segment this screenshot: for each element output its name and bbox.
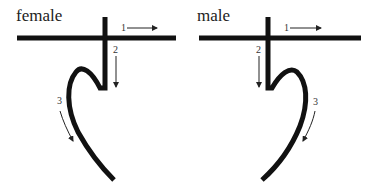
male-step-3-label: 3 bbox=[313, 96, 318, 107]
female-step-1-label: 1 bbox=[121, 22, 126, 33]
male-step-1-label: 1 bbox=[284, 22, 289, 33]
female-step-3-label: 3 bbox=[57, 95, 62, 106]
female-panel: female 1 2 3 bbox=[16, 6, 176, 180]
female-glyph-stroke bbox=[69, 17, 114, 180]
stroke-order-diagram: female 1 2 3 male 1 2 3 bbox=[0, 0, 372, 196]
male-glyph-stroke bbox=[262, 17, 306, 180]
female-title: female bbox=[16, 6, 62, 25]
male-panel: male 1 2 3 bbox=[197, 6, 361, 180]
female-step-2-label: 2 bbox=[113, 44, 118, 55]
male-title: male bbox=[197, 6, 230, 25]
male-step-2-label: 2 bbox=[256, 44, 261, 55]
